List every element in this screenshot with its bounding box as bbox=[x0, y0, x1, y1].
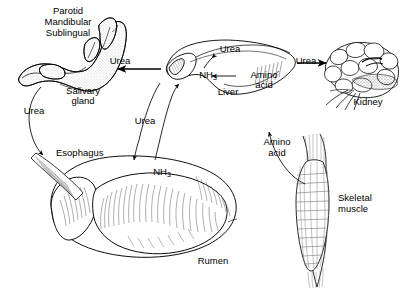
flow-label-urea-liver-to-salivary: Urea bbox=[110, 56, 131, 67]
rumen-shape bbox=[51, 156, 237, 257]
nh3-rumen-base: NH bbox=[153, 166, 167, 177]
flow-label-urea-liver-to-rumen: Urea bbox=[135, 116, 156, 127]
nh3-liver-sub: 3 bbox=[213, 74, 217, 81]
diagram-canvas: Parotid Mandibular Sublingual Salivary g… bbox=[0, 0, 406, 291]
organ-label-salivary-gland-line2: gland bbox=[71, 96, 94, 107]
flow-label-urea-in-liver: Urea bbox=[220, 44, 241, 55]
arrow-urea-salivary-to-esophagus bbox=[29, 87, 43, 155]
flow-label-urea-salivary-to-esophagus: Urea bbox=[24, 106, 45, 117]
arrow-nh3-rumen-to-liver bbox=[155, 84, 179, 160]
skeletal-muscle-shape bbox=[296, 134, 330, 288]
organ-label-rumen: Rumen bbox=[198, 256, 229, 267]
gland-type-mandibular: Mandibular bbox=[45, 17, 92, 28]
nh3-liver-base: NH bbox=[199, 69, 213, 80]
flow-label-nh3-rumen: NH3 bbox=[153, 167, 171, 179]
gland-type-parotid: Parotid bbox=[53, 6, 83, 17]
flow-label-amino-acid-liver-line2: acid bbox=[255, 80, 272, 91]
organ-label-skeletal-muscle-line1: Skeletal bbox=[338, 193, 372, 204]
nh3-rumen-sub: 3 bbox=[167, 171, 171, 178]
organ-label-esophagus: Esophagus bbox=[56, 148, 104, 159]
organ-label-skeletal-muscle-line2: muscle bbox=[338, 204, 368, 215]
diagram-artwork bbox=[0, 0, 406, 291]
flow-label-amino-acid-muscle-line2: acid bbox=[268, 148, 285, 159]
flow-label-urea-liver-to-kidney: Urea bbox=[296, 56, 317, 67]
gland-type-sublingual: Sublingual bbox=[46, 28, 90, 39]
organ-label-kidney: Kidney bbox=[353, 97, 382, 108]
flow-label-amino-acid-muscle-line1: Amino bbox=[264, 137, 291, 148]
organ-label-liver: Liver bbox=[218, 87, 239, 98]
flow-label-nh3-in-liver: NH3 bbox=[199, 70, 217, 82]
